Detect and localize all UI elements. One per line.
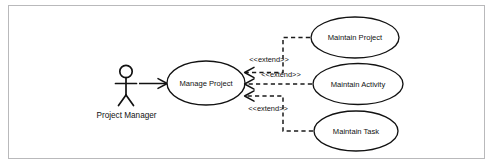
use-case-label-manage-project: Manage Project bbox=[179, 79, 233, 88]
figure-root: Project Manager Manage Project Maintain … bbox=[0, 0, 493, 168]
use-case-maintain-task[interactable]: Maintain Task bbox=[314, 111, 398, 151]
extend-stereotype-label: <<extend>> bbox=[249, 55, 288, 64]
use-case-diagram: Project Manager Manage Project Maintain … bbox=[0, 0, 493, 168]
use-case-label-maintain-task: Maintain Task bbox=[333, 127, 379, 136]
actor-leg-right-icon bbox=[126, 95, 134, 106]
association-project-manager-manage-project[interactable] bbox=[139, 79, 167, 89]
actor-label-project-manager: Project Manager bbox=[96, 111, 156, 120]
extend-stereotype-label: <<extend>> bbox=[248, 104, 287, 113]
actor-leg-left-icon bbox=[119, 95, 127, 106]
extend-relationship-maintain-task[interactable]: <<extend>> bbox=[245, 91, 313, 131]
use-case-label-maintain-project: Maintain Project bbox=[328, 33, 383, 42]
use-case-label-maintain-activity: Maintain Activity bbox=[331, 80, 386, 89]
use-case-manage-project[interactable]: Manage Project bbox=[167, 61, 245, 105]
extend-stereotype-label: <<extend>> bbox=[261, 70, 300, 79]
actor-project-manager[interactable]: Project Manager bbox=[96, 65, 156, 120]
extend-dashed-line bbox=[246, 96, 313, 131]
use-case-maintain-activity[interactable]: Maintain Activity bbox=[313, 64, 403, 105]
actor-head-icon bbox=[120, 65, 132, 77]
use-case-maintain-project[interactable]: Maintain Project bbox=[311, 17, 399, 58]
